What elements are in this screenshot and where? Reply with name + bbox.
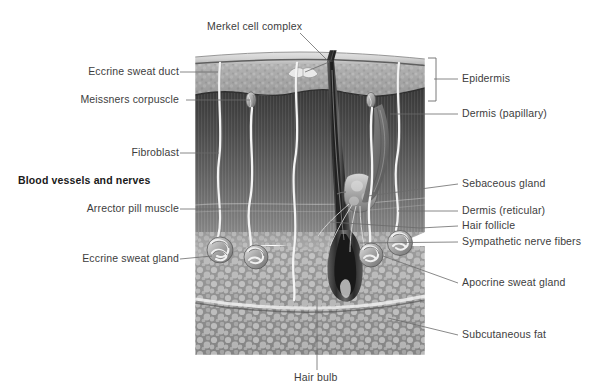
label-hair-follicle: Hair follicle	[462, 220, 515, 231]
label-sympathetic-nerve-fibers: Sympathetic nerve fibers	[462, 236, 581, 247]
label-eccrine-sweat-duct: Eccrine sweat duct	[88, 66, 179, 77]
label-apocrine-sweat-gland: Apocrine sweat gland	[462, 277, 565, 288]
label-merkel-cell-complex: Merkel cell complex	[207, 21, 302, 32]
label-subcutaneous-fat: Subcutaneous fat	[462, 329, 546, 340]
papillary-dermis-layer	[195, 88, 425, 232]
meissners-corpuscle-right	[366, 92, 375, 107]
label-sebaceous-gland: Sebaceous gland	[462, 178, 545, 189]
label-blood-vessels-and-nerves: Blood vessels and nerves	[18, 175, 151, 186]
skin-cross-section-illustration	[195, 12, 425, 355]
label-dermis-papillary: Dermis (papillary)	[462, 108, 547, 119]
label-hair-bulb: Hair bulb	[294, 372, 337, 383]
label-fibroblast: Fibroblast	[131, 147, 179, 158]
label-meissners-corpuscle: Meissners corpuscle	[80, 94, 179, 105]
label-eccrine-sweat-gland: Eccrine sweat gland	[82, 253, 179, 264]
eccrine-sweat-gland-2	[244, 245, 268, 269]
label-arrector-pill-muscle: Arrector pill muscle	[87, 203, 179, 214]
merkel-cell-complex-structure	[288, 68, 318, 78]
label-epidermis: Epidermis	[462, 73, 510, 84]
label-dermis-reticular: Dermis (reticular)	[462, 205, 545, 216]
apocrine-sweat-gland-structure	[359, 243, 383, 267]
skin-anatomy-figure: Merkel cell complex Eccrine sweat duct M…	[0, 0, 592, 392]
epidermis-bracket	[428, 58, 436, 101]
eccrine-sweat-gland-1	[207, 237, 233, 263]
